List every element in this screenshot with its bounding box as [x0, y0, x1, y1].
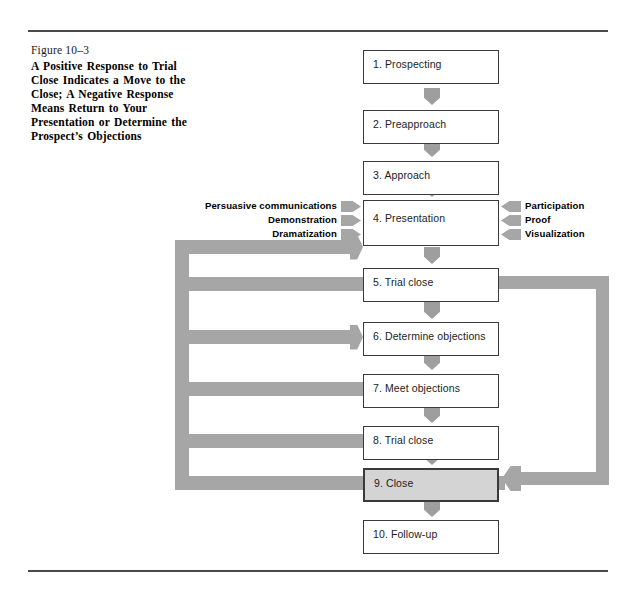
- flow-step-label: 7. Meet objections: [373, 382, 460, 394]
- right-loop-bottom-bar: [519, 472, 609, 485]
- figure-caption: Figure 10–3 A Positive Response to Trial…: [31, 44, 206, 144]
- flow-step-box: 5. Trial close: [363, 268, 499, 302]
- arrow-down-icon: [424, 247, 440, 264]
- arrow-down-icon: [424, 500, 440, 517]
- flow-step-label: 2. Preapproach: [373, 118, 446, 130]
- figure-title: A Positive Response to Trial Close Indic…: [31, 59, 206, 144]
- flow-step-box: 3. Approach: [363, 161, 499, 195]
- bottom-rule: [28, 570, 608, 572]
- loop-branch-arrowhead-icon: [350, 325, 363, 350]
- presentation-input-label-right: Proof: [525, 214, 551, 225]
- flow-step-box: 4. Presentation: [363, 200, 499, 246]
- arrow-left-icon: [501, 201, 521, 212]
- arrow-left-icon: [501, 229, 521, 240]
- flow-step-label: 10. Follow-up: [373, 528, 437, 540]
- presentation-input-label-left: Demonstration: [268, 214, 337, 225]
- flow-step-label: 1. Prospecting: [373, 58, 442, 70]
- loop-branch-shaft: [175, 240, 352, 254]
- top-rule: [28, 30, 608, 32]
- arrow-right-icon: [341, 201, 361, 212]
- loop-branch-bar: [175, 277, 363, 291]
- right-loop-spine: [596, 276, 609, 485]
- flow-step-box: 2. Preapproach: [363, 110, 499, 144]
- flow-step-box: 10. Follow-up: [363, 520, 499, 554]
- flow-step-box: 1. Prospecting: [363, 50, 499, 84]
- flow-step-label: 9. Close: [374, 477, 413, 489]
- flow-step-box: 8. Trial close: [363, 426, 499, 460]
- flow-step-label: 6. Determine objections: [373, 330, 486, 342]
- flow-step-label: 8. Trial close: [373, 434, 433, 446]
- arrow-left-icon: [501, 215, 521, 226]
- flow-step-label: 4. Presentation: [373, 212, 445, 224]
- flow-step-box: 7. Meet objections: [363, 374, 499, 408]
- arrow-down-icon: [424, 406, 440, 423]
- arrow-right-icon: [341, 215, 361, 226]
- loop-branch-bar: [175, 434, 363, 448]
- presentation-input-label-right: Visualization: [525, 228, 585, 239]
- loop-branch-shaft: [175, 330, 352, 344]
- arrow-down-icon: [424, 302, 440, 319]
- figure-number: Figure 10–3: [31, 44, 206, 56]
- loop-branch-bar: [175, 382, 363, 396]
- arrow-down-icon: [424, 88, 440, 105]
- flow-step-box: 9. Close: [363, 468, 499, 502]
- flow-step-label: 3. Approach: [373, 169, 430, 181]
- right-loop-top-bar: [499, 276, 609, 289]
- presentation-input-label-right: Participation: [525, 200, 584, 211]
- figure-diagram: Figure 10–3 A Positive Response to Trial…: [0, 0, 635, 593]
- flow-step-label: 5. Trial close: [373, 276, 433, 288]
- loop-branch-arrow-icon: [175, 240, 363, 254]
- presentation-input-label-left: Persuasive communications: [205, 200, 337, 211]
- presentation-input-label-left: Dramatization: [272, 228, 337, 239]
- flow-step-box: 6. Determine objections: [363, 322, 499, 356]
- loop-branch-arrow-icon: [175, 330, 363, 344]
